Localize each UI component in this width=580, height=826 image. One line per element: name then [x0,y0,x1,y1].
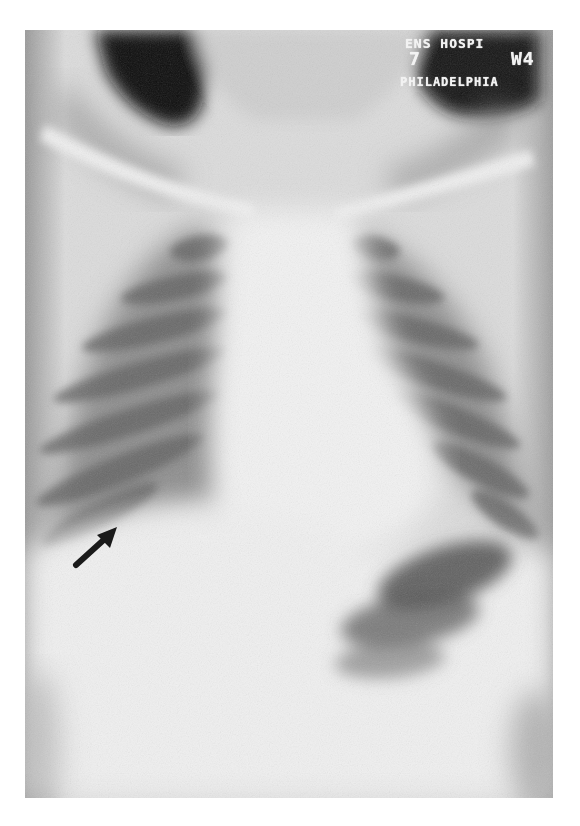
arrow-icon [0,0,580,826]
